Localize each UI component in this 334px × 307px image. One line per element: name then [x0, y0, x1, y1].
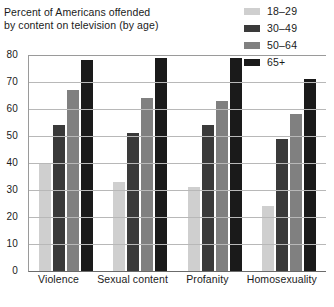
y-axis-tick-label: 40 [0, 158, 18, 168]
bar[interactable] [113, 182, 125, 271]
x-axis-category-label: Homosexuality [247, 273, 317, 285]
plot-area: 80706050403020100 [28, 55, 326, 272]
gridline [29, 244, 326, 245]
bar-chart: Percent of Americans offended by content… [0, 0, 334, 307]
gridline [29, 82, 326, 83]
chart-title: Percent of Americans offended by content… [4, 6, 219, 32]
x-axis-category-label: Profanity [186, 273, 228, 285]
legend-item[interactable]: 30–49 [244, 21, 332, 35]
legend-item[interactable]: 18–29 [244, 4, 332, 18]
bar[interactable] [141, 98, 153, 271]
bar[interactable] [262, 206, 274, 271]
chart-title-line-1: Percent of Americans offended [4, 6, 219, 19]
bar[interactable] [155, 58, 167, 271]
y-axis-tick-label: 0 [0, 266, 18, 276]
legend-swatch-icon [244, 25, 260, 32]
x-axis-labels: ViolenceSexual contentProfanityHomosexua… [29, 273, 326, 285]
y-axis-tick-label: 50 [0, 131, 18, 141]
x-axis-category-label: Violence [38, 273, 79, 285]
legend-item-label: 18–29 [267, 6, 297, 17]
bar[interactable] [81, 60, 93, 271]
bar[interactable] [290, 114, 302, 271]
y-axis-tick-label: 60 [0, 104, 18, 114]
plot-wrapper: 80706050403020100 [0, 47, 334, 279]
gridline [29, 217, 326, 218]
gridline [29, 190, 326, 191]
gridline [29, 55, 326, 56]
bar[interactable] [216, 101, 228, 271]
bar[interactable] [230, 58, 242, 271]
x-axis-category-label: Sexual content [97, 273, 168, 285]
bar[interactable] [127, 133, 139, 271]
legend-item-label: 30–49 [267, 23, 297, 34]
bar[interactable] [276, 139, 288, 271]
y-axis-tick-label: 10 [0, 239, 18, 249]
bar[interactable] [202, 125, 214, 271]
legend-swatch-icon [244, 8, 260, 15]
y-axis-tick-label: 30 [0, 185, 18, 195]
gridline [29, 109, 326, 110]
y-axis-tick-label: 80 [0, 50, 18, 60]
bar[interactable] [188, 187, 200, 271]
y-axis-tick-label: 20 [0, 212, 18, 222]
gridline [29, 136, 326, 137]
gridline [29, 163, 326, 164]
chart-title-line-2: by content on television (by age) [4, 19, 219, 32]
y-axis-tick-label: 70 [0, 77, 18, 87]
bar[interactable] [53, 125, 65, 271]
